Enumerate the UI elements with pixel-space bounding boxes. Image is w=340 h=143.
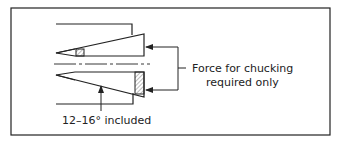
upper-spindle-outline: [56, 24, 132, 35]
force-label-line1: Force for chucking: [192, 62, 293, 75]
force-label-line2: required only: [206, 76, 279, 89]
upper-hatched-block: [76, 49, 84, 56]
lower-collet-taper: [56, 72, 144, 97]
lower-hatched-block: [135, 72, 144, 94]
upper-collet-taper: [56, 34, 144, 56]
diagram-canvas: Force for chucking required only 12–16° …: [0, 0, 340, 143]
angle-label: 12–16° included: [62, 114, 151, 127]
collet-taper-diagram: Force for chucking required only 12–16° …: [0, 0, 340, 143]
lower-spindle-outline: [56, 93, 133, 104]
